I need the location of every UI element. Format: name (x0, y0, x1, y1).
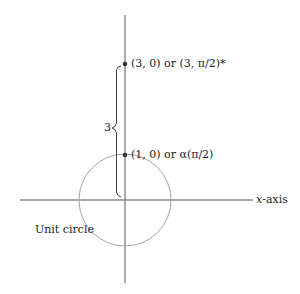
x-axis-label: x-axis (256, 194, 288, 205)
brace-3 (112, 66, 121, 197)
diagram-canvas (0, 0, 300, 294)
point-1-0-label: (1, 0) or α(π/2) (131, 149, 213, 160)
polar-diagram: (3, 0) or (3, π/2)* (1, 0) or α(π/2) 3 x… (0, 0, 300, 294)
point-3-0-label: (3, 0) or (3, π/2)* (131, 58, 225, 69)
point-3-0 (123, 62, 128, 67)
brace-label: 3 (104, 122, 111, 133)
x-axis-rest: -axis (262, 193, 288, 206)
unit-circle-label: Unit circle (35, 224, 94, 235)
point-1-0 (123, 153, 128, 158)
